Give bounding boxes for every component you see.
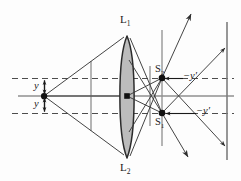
lens-bottom-label: L2 bbox=[120, 162, 130, 176]
object-height-lower-label: y bbox=[34, 99, 39, 110]
object-height-upper-label: y bbox=[34, 81, 39, 92]
image-point-lower-label: S1 bbox=[155, 117, 164, 130]
image-height-upper-label: −y′ bbox=[183, 71, 197, 82]
emergent-ray-bundle bbox=[162, 14, 225, 157]
image-point-upper-label: S2 bbox=[155, 64, 164, 77]
optics-ray-diagram: L1 L2 S2 S1 y y −y′ −y′ bbox=[0, 0, 241, 181]
lens-center-marker bbox=[124, 93, 130, 99]
lens-top-label: L1 bbox=[120, 14, 130, 28]
image-height-lower-label: −y′ bbox=[196, 106, 210, 117]
incident-ray-bundle bbox=[44, 37, 127, 155]
